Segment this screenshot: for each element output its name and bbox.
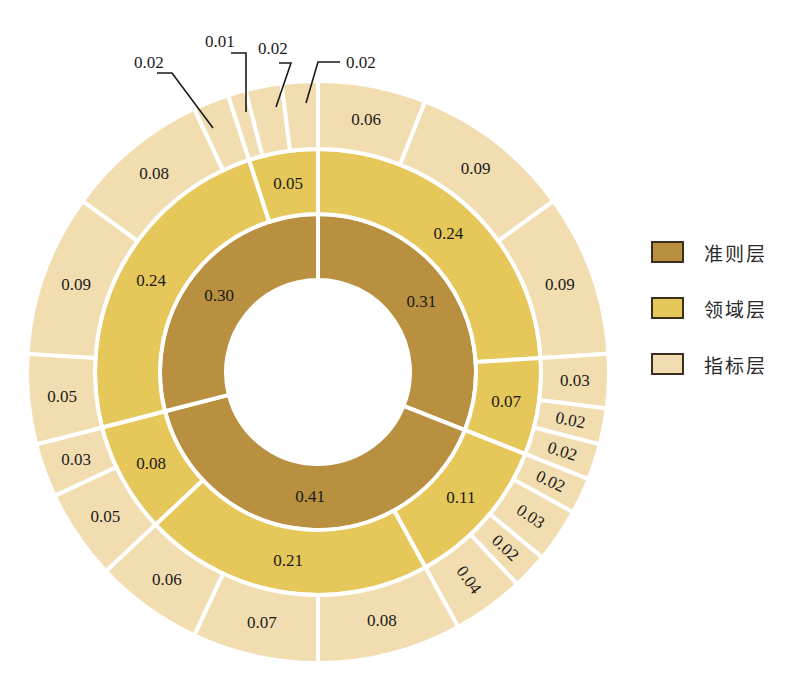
segment-value-label: 0.03 xyxy=(61,450,91,469)
sunburst-rings xyxy=(27,81,609,663)
segment-value-label: 0.24 xyxy=(434,224,464,243)
segment-value-label: 0.03 xyxy=(560,371,590,390)
segment-value-label: 0.06 xyxy=(351,110,381,129)
legend-swatch-icon xyxy=(651,241,684,263)
segment-value-label: 0.41 xyxy=(295,487,325,506)
callout-value-label: 0.02 xyxy=(346,53,376,72)
segment-value-label: 0.06 xyxy=(152,570,182,589)
legend-swatch-icon xyxy=(651,297,684,319)
segment-value-label: 0.09 xyxy=(545,275,575,294)
segment-value-label: 0.08 xyxy=(136,454,166,473)
segment-value-label: 0.07 xyxy=(491,392,521,411)
segment-value-label: 0.30 xyxy=(204,286,234,305)
sunburst-chart: 0.310.410.300.240.070.110.210.080.240.05… xyxy=(0,0,640,685)
outer-segment xyxy=(282,81,318,151)
callout-value-label: 0.02 xyxy=(258,39,288,58)
segment-value-label: 0.31 xyxy=(407,292,437,311)
segment-value-label: 0.11 xyxy=(446,488,475,507)
segment-value-label: 0.05 xyxy=(273,174,303,193)
segment-value-label: 0.09 xyxy=(61,275,91,294)
legend-label: 领域层 xyxy=(704,295,767,322)
segment-value-label: 0.05 xyxy=(91,507,121,526)
segment-value-label: 0.08 xyxy=(139,164,169,183)
segment-value-label: 0.09 xyxy=(461,159,491,178)
legend-item-domain-layer: 领域层 xyxy=(651,294,767,322)
segment-value-label: 0.08 xyxy=(367,611,397,630)
segment-value-label: 0.05 xyxy=(47,387,77,406)
legend-item-criterion-layer: 准则层 xyxy=(651,238,767,266)
legend-label: 指标层 xyxy=(704,351,767,378)
callout-value-label: 0.02 xyxy=(134,53,164,72)
segment-value-label: 0.21 xyxy=(273,551,303,570)
legend-swatch-icon xyxy=(651,353,684,375)
legend: 准则层 领域层 指标层 xyxy=(651,238,767,406)
segment-value-label: 0.24 xyxy=(136,271,166,290)
callout-value-label: 0.01 xyxy=(205,32,235,51)
legend-item-indicator-layer: 指标层 xyxy=(651,350,767,378)
legend-label: 准则层 xyxy=(704,239,767,266)
segment-value-label: 0.07 xyxy=(247,613,277,632)
